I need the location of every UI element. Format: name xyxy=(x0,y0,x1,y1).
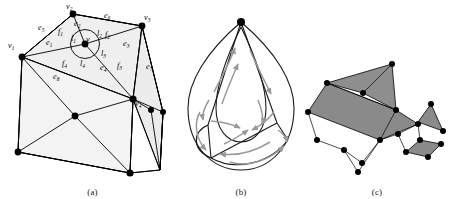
label-v2: v2 xyxy=(66,2,73,12)
arrow-left-down xyxy=(203,100,209,120)
caption-b: (b) xyxy=(178,187,304,197)
chord-lower-left xyxy=(208,125,211,158)
vertex-c-16 xyxy=(417,137,423,143)
connector-2 xyxy=(317,140,344,150)
arrow-apex-left xyxy=(214,48,235,92)
facet-small-parallelogram xyxy=(406,140,441,157)
panel-c-graphic xyxy=(300,0,454,199)
vertex-c-6 xyxy=(415,121,421,127)
vertex-front-center xyxy=(72,113,79,120)
connector-3 xyxy=(344,150,358,172)
vertex-c-17 xyxy=(438,141,444,147)
vertex-bottom-front xyxy=(126,169,133,176)
caption-c: (c) xyxy=(300,187,454,197)
vertex-c-3 xyxy=(389,61,395,67)
vertex-c-8 xyxy=(428,101,434,107)
connector-1 xyxy=(308,112,317,140)
arrow-inner-right xyxy=(258,100,263,124)
chord-right xyxy=(277,123,288,140)
panel-b-graphic xyxy=(178,0,304,199)
vertex-c-14 xyxy=(395,131,401,137)
vertex-c-2 xyxy=(360,90,366,96)
vertex-c-7 xyxy=(377,137,383,143)
vertex-v3 xyxy=(139,23,146,30)
caption-a: (a) xyxy=(0,187,185,197)
panel-c: (c) xyxy=(300,0,454,199)
vertex-c-10 xyxy=(314,137,320,143)
connector-4 xyxy=(358,140,380,172)
connector-5 xyxy=(362,140,380,163)
vertex-v1 xyxy=(19,54,26,61)
label-v-center: v xyxy=(86,35,90,44)
vertex-c-4 xyxy=(393,107,399,113)
label-e6: e6 xyxy=(104,11,111,21)
vertex-c-11 xyxy=(341,147,347,153)
arrow-apex-right xyxy=(250,50,271,94)
vertex-c-13 xyxy=(359,160,365,166)
vertex-c-1 xyxy=(324,80,330,86)
vertex-right-edge xyxy=(160,109,166,115)
panel-a: v1 v2 v3 v4 v e1 e2 e3 e4 e5 e6 e7 e8 f1… xyxy=(0,0,185,199)
label-v1: v1 xyxy=(8,41,15,51)
vertex-right-upper xyxy=(148,107,154,113)
arrow-left-lobe xyxy=(196,112,206,150)
vertex-c-5 xyxy=(305,109,311,115)
right-face-edge-3 xyxy=(130,170,160,173)
arrow-left-inner xyxy=(211,121,240,128)
label-e5: e5 xyxy=(38,23,45,33)
panel-a-graphic: v1 v2 v3 v4 v e1 e2 e3 e4 e5 e6 e7 e8 f1… xyxy=(0,0,185,199)
label-v3: v3 xyxy=(144,13,151,23)
vertex-c-18 xyxy=(425,154,431,160)
connector-6 xyxy=(344,150,362,163)
panel-b: (b) xyxy=(178,0,304,199)
vertex-c-9 xyxy=(440,128,446,134)
facet-right-triangle xyxy=(418,104,443,131)
spoke-right xyxy=(241,22,277,123)
vertex-bottom-left xyxy=(15,149,22,156)
vertex-c-15 xyxy=(403,149,409,155)
apex-vertex xyxy=(237,18,245,26)
arrow-bottom-left xyxy=(220,142,270,155)
figure-root: v1 v2 v3 v4 v e1 e2 e3 e4 e5 e6 e7 e8 f1… xyxy=(0,0,454,199)
inner-teardrop xyxy=(216,27,266,142)
vertex-c-12 xyxy=(355,169,361,175)
